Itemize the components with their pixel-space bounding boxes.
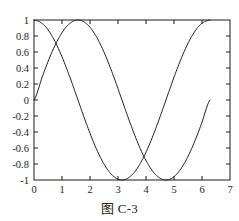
y-tick-label: -0.2	[12, 111, 29, 122]
plot-canvas: 01234567-1-0.8-0.6-0.4-0.200.20.40.60.81	[0, 0, 239, 221]
y-tick-label: 0.6	[16, 47, 29, 58]
y-tick-label: -1	[20, 175, 29, 186]
y-tick-label: 0	[24, 95, 29, 106]
x-tick-label: 5	[171, 184, 176, 195]
x-tick-label: 2	[87, 184, 92, 195]
y-tick-label: 0.2	[16, 79, 29, 90]
plot-frame	[34, 20, 230, 180]
x-tick-label: 6	[199, 184, 204, 195]
x-tick-label: 7	[227, 184, 232, 195]
y-tick-label: 0.8	[16, 31, 29, 42]
x-tick-label: 1	[59, 184, 64, 195]
x-tick-label: 0	[31, 184, 36, 195]
y-tick-label: 1	[24, 15, 29, 26]
figure-caption: 图 C-3	[0, 198, 239, 217]
x-tick-label: 3	[115, 184, 120, 195]
y-tick-label: -0.4	[12, 127, 29, 138]
figure-c3: 01234567-1-0.8-0.6-0.4-0.200.20.40.60.81…	[0, 0, 239, 221]
y-tick-label: -0.6	[12, 143, 29, 154]
curve-sinx	[34, 20, 210, 180]
x-tick-label: 4	[143, 184, 149, 195]
y-tick-label: 0.4	[16, 63, 30, 74]
y-tick-label: -0.8	[12, 159, 29, 170]
